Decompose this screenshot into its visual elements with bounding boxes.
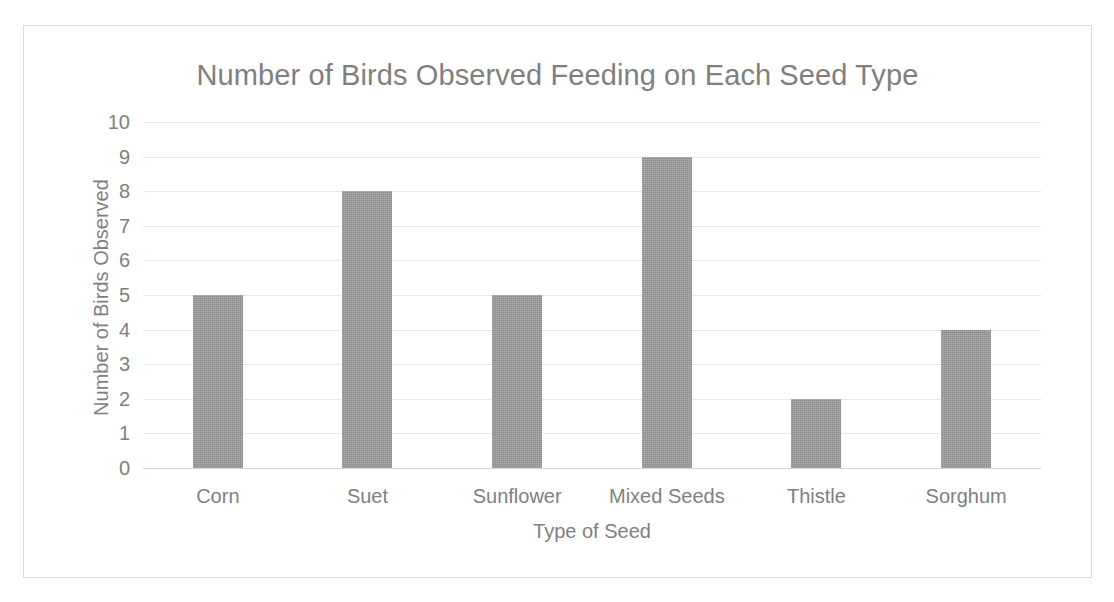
y-tick-label: 3 — [119, 353, 130, 376]
bar-group[interactable]: Corn — [143, 122, 293, 468]
bar-group[interactable]: Suet — [293, 122, 443, 468]
x-tick-label: Mixed Seeds — [609, 485, 725, 508]
y-tick-label: 1 — [119, 422, 130, 445]
y-tick-label: 0 — [119, 457, 130, 480]
y-tick-label: 7 — [119, 214, 130, 237]
bar-group[interactable]: Sorghum — [891, 122, 1041, 468]
x-tick-label: Suet — [347, 485, 388, 508]
y-tick-label: 4 — [119, 318, 130, 341]
y-tick-label: 2 — [119, 387, 130, 410]
y-tick-label: 5 — [119, 284, 130, 307]
x-tick-label: Corn — [196, 485, 239, 508]
bar-group[interactable]: Thistle — [742, 122, 892, 468]
y-tick-label: 8 — [119, 180, 130, 203]
y-axis-title: Number of Birds Observed — [90, 148, 113, 448]
x-tick-label: Sunflower — [473, 485, 562, 508]
bar[interactable] — [492, 295, 542, 468]
bar[interactable] — [791, 399, 841, 468]
bar[interactable] — [193, 295, 243, 468]
chart-container: Number of Birds Observed Feeding on Each… — [23, 25, 1092, 578]
bar-group[interactable]: Sunflower — [442, 122, 592, 468]
y-tick-label: 9 — [119, 145, 130, 168]
bar[interactable] — [941, 330, 991, 468]
plot-area: 109876543210 CornSuetSunflowerMixed Seed… — [143, 122, 1041, 468]
chart-title: Number of Birds Observed Feeding on Each… — [24, 59, 1091, 92]
bar-series: CornSuetSunflowerMixed SeedsThistleSorgh… — [143, 122, 1041, 468]
x-tick-label: Thistle — [787, 485, 846, 508]
x-tick-label: Sorghum — [926, 485, 1007, 508]
bar[interactable] — [342, 191, 392, 468]
bar-group[interactable]: Mixed Seeds — [592, 122, 742, 468]
y-tick-label: 6 — [119, 249, 130, 272]
bar[interactable] — [642, 157, 692, 468]
x-axis-title: Type of Seed — [143, 520, 1041, 543]
y-tick-label: 10 — [108, 111, 130, 134]
gridline: 0 — [143, 468, 1041, 469]
